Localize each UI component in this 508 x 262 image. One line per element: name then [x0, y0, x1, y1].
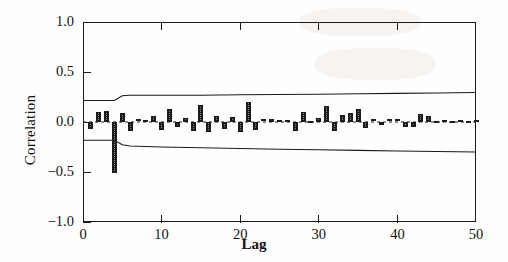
confidence-bands — [0, 0, 508, 262]
chart-figure: Correlation Lag −1.0−0.50.00.51.00102030… — [0, 0, 508, 262]
upper-confidence-band — [83, 93, 476, 101]
lower-confidence-band — [83, 140, 476, 152]
